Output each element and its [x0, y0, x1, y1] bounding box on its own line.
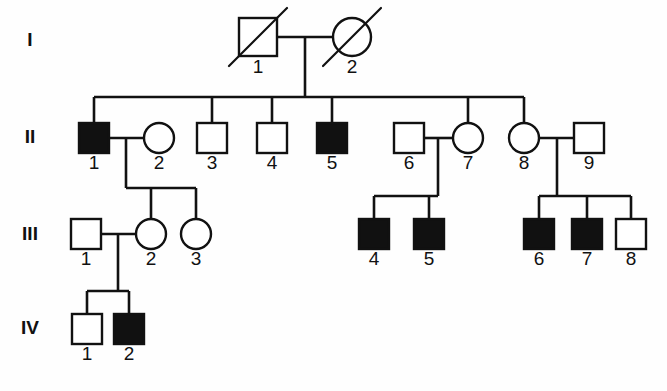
id-label-II-6: 6 [404, 152, 415, 173]
id-label-layer: 121234567891234567812 [81, 56, 637, 364]
id-label-I-2: 2 [347, 56, 358, 77]
generation-label-III: III [22, 223, 38, 244]
id-label-II-1: 1 [89, 152, 100, 173]
symbol-II-3-male-unaffected[interactable] [197, 123, 227, 153]
generation-label-layer: IIIIIIIV [21, 29, 39, 338]
generation-label-II: II [25, 126, 36, 147]
symbol-II-6-male-unaffected[interactable] [394, 123, 424, 153]
id-label-III-3: 3 [191, 248, 202, 269]
symbol-layer [71, 8, 646, 344]
id-label-II-3: 3 [207, 152, 218, 173]
id-label-II-7: 7 [463, 152, 474, 173]
symbol-II-8-female-unaffected[interactable] [509, 123, 539, 153]
id-label-II-5: 5 [327, 152, 338, 173]
id-label-II-2: 2 [154, 152, 165, 173]
id-label-III-2: 2 [146, 248, 157, 269]
id-label-III-8: 8 [626, 248, 637, 269]
symbol-II-5-male-affected[interactable] [317, 123, 347, 153]
id-label-I-1: 1 [253, 56, 264, 77]
symbol-IV-1-male-unaffected[interactable] [72, 314, 102, 344]
symbol-II-2-female-unaffected[interactable] [144, 123, 174, 153]
symbol-III-5-male-affected[interactable] [414, 219, 444, 249]
id-label-III-5: 5 [424, 248, 435, 269]
symbol-III-3-female-unaffected[interactable] [181, 219, 211, 249]
pedigree-canvas: 121234567891234567812 IIIIIIIV [0, 0, 667, 391]
pedigree-chart: 121234567891234567812 IIIIIIIV [0, 0, 667, 391]
id-label-III-1: 1 [81, 248, 92, 269]
id-label-II-4: 4 [267, 152, 278, 173]
connector-layer [87, 37, 631, 314]
id-label-II-8: 8 [519, 152, 530, 173]
id-label-IV-1: 1 [82, 343, 93, 364]
symbol-IV-2-male-affected[interactable] [114, 314, 144, 344]
symbol-III-4-male-affected[interactable] [359, 219, 389, 249]
symbol-III-6-male-affected[interactable] [524, 219, 554, 249]
symbol-II-1-male-affected[interactable] [79, 123, 109, 153]
symbol-II-4-male-unaffected[interactable] [257, 123, 287, 153]
id-label-III-6: 6 [534, 248, 545, 269]
generation-label-IV: IV [21, 317, 39, 338]
symbol-III-1-male-unaffected[interactable] [71, 219, 101, 249]
symbol-II-7-female-unaffected[interactable] [453, 123, 483, 153]
id-label-IV-2: 2 [124, 343, 135, 364]
symbol-III-2-female-unaffected[interactable] [136, 219, 166, 249]
id-label-III-4: 4 [369, 248, 380, 269]
id-label-III-7: 7 [582, 248, 593, 269]
symbol-III-7-male-affected[interactable] [572, 219, 602, 249]
symbol-III-8-male-unaffected[interactable] [616, 219, 646, 249]
id-label-II-9: 9 [584, 152, 595, 173]
generation-label-I: I [27, 29, 32, 50]
symbol-II-9-male-unaffected[interactable] [574, 123, 604, 153]
